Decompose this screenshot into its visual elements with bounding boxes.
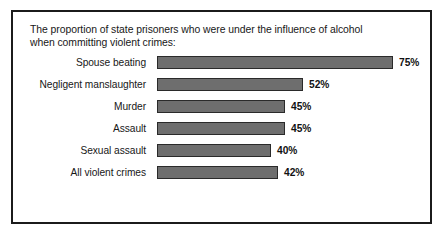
caption-line-2: when committing violent crimes:: [30, 37, 408, 50]
bar-row: Sexual assault 40%: [13, 144, 430, 157]
caption-line-1: The proportion of state prisoners who we…: [30, 24, 408, 37]
bar-fill-assault: [157, 122, 285, 135]
bar-value-negligent-manslaughter: 52%: [309, 78, 329, 91]
bar-track: 45%: [157, 122, 430, 135]
figure-frame: The proportion of state prisoners who we…: [11, 10, 432, 224]
bar-track: 52%: [157, 78, 430, 91]
bar-row: Murder 45%: [13, 100, 430, 113]
bar-value-spouse-beating: 75%: [399, 56, 419, 69]
bar-row: Assault 45%: [13, 122, 430, 135]
bar-value-assault: 45%: [291, 122, 311, 135]
bar-label-murder: Murder: [13, 100, 146, 113]
bar-label-spouse-beating: Spouse beating: [13, 56, 146, 69]
bar-fill-negligent-manslaughter: [157, 78, 303, 91]
bar-row: All violent crimes 42%: [13, 166, 430, 179]
bar-track: 45%: [157, 100, 430, 113]
bar-fill-murder: [157, 100, 285, 113]
bar-fill-spouse-beating: [157, 56, 393, 69]
bar-value-sexual-assault: 40%: [277, 144, 297, 157]
bar-value-all-violent-crimes: 42%: [284, 166, 304, 179]
bar-chart: Spouse beating 75% Negligent manslaughte…: [13, 56, 430, 220]
bar-label-negligent-manslaughter: Negligent manslaughter: [13, 78, 146, 91]
bar-fill-sexual-assault: [157, 144, 271, 157]
bar-fill-all-violent-crimes: [157, 166, 278, 179]
bar-row: Negligent manslaughter 52%: [13, 78, 430, 91]
figure-caption: The proportion of state prisoners who we…: [30, 24, 408, 49]
bar-label-assault: Assault: [13, 122, 146, 135]
bar-label-sexual-assault: Sexual assault: [13, 144, 146, 157]
bar-label-all-violent-crimes: All violent crimes: [13, 166, 146, 179]
bar-track: 42%: [157, 166, 430, 179]
bar-value-murder: 45%: [291, 100, 311, 113]
bar-row: Spouse beating 75%: [13, 56, 430, 69]
bar-track: 40%: [157, 144, 430, 157]
figure-root: The proportion of state prisoners who we…: [0, 0, 446, 238]
bar-track: 75%: [157, 56, 430, 69]
